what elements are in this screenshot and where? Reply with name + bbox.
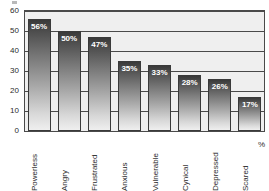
- bar: 50%: [58, 31, 81, 131]
- y-tick-label-30: 30: [10, 67, 19, 75]
- category-label: Frustrated: [91, 155, 99, 191]
- plot-area: 56%50%47%35%33%28%26%17%: [24, 10, 265, 132]
- bar-value-label: 33%: [149, 68, 170, 77]
- y-tick-label-40: 40: [10, 47, 19, 55]
- category-label: Scared: [242, 166, 250, 191]
- bar: 17%: [238, 97, 261, 131]
- category-label-slot: Anxious: [114, 133, 144, 191]
- category-label-slot: Depressed: [205, 133, 235, 191]
- bar-value-label: 26%: [209, 82, 230, 91]
- y-tick-label-60: 60: [10, 7, 19, 15]
- category-label-slot: Cynical: [175, 133, 205, 191]
- bar: 26%: [208, 79, 231, 131]
- bar-chart: 60 50 40 30 20 10 0 % 56%50%47%35%33%28%…: [0, 0, 269, 191]
- y-axis: 60 50 40 30 20 10 0: [0, 0, 23, 191]
- bar: 35%: [118, 61, 141, 131]
- y-tick-label-50: 50: [10, 27, 19, 35]
- category-label-slot: Scared: [235, 133, 265, 191]
- category-label: Depressed: [212, 152, 220, 191]
- category-label: Powerless: [31, 154, 39, 191]
- category-label-slot: Frustrated: [84, 133, 114, 191]
- category-label-slot: Powerless: [24, 133, 54, 191]
- y-tick-label-10: 10: [10, 107, 19, 115]
- bar-value-label: 47%: [89, 40, 110, 49]
- gridline-0: [25, 131, 264, 132]
- bar: 47%: [88, 37, 111, 131]
- bar-value-label: 17%: [239, 100, 260, 109]
- bar: 56%: [28, 19, 51, 131]
- category-label: Vulnerable: [152, 153, 160, 191]
- bar: 33%: [148, 65, 171, 131]
- bar-value-label: 56%: [29, 22, 50, 31]
- y-tick-label-0: 0: [15, 127, 19, 135]
- bar-value-label: 35%: [119, 64, 140, 73]
- category-label: Angry: [61, 170, 69, 191]
- bar-value-label: 28%: [179, 78, 200, 87]
- bars-layer: 56%50%47%35%33%28%26%17%: [25, 11, 264, 131]
- category-label: Cynical: [182, 165, 190, 191]
- category-label: Anxious: [121, 163, 129, 191]
- bar-value-label: 50%: [59, 34, 80, 43]
- y-tick-label-20: 20: [10, 87, 19, 95]
- category-label-slot: Vulnerable: [145, 133, 175, 191]
- x-axis-category-labels: PowerlessAngryFrustratedAnxiousVulnerabl…: [24, 133, 265, 191]
- category-label-slot: Angry: [54, 133, 84, 191]
- bar: 28%: [178, 75, 201, 131]
